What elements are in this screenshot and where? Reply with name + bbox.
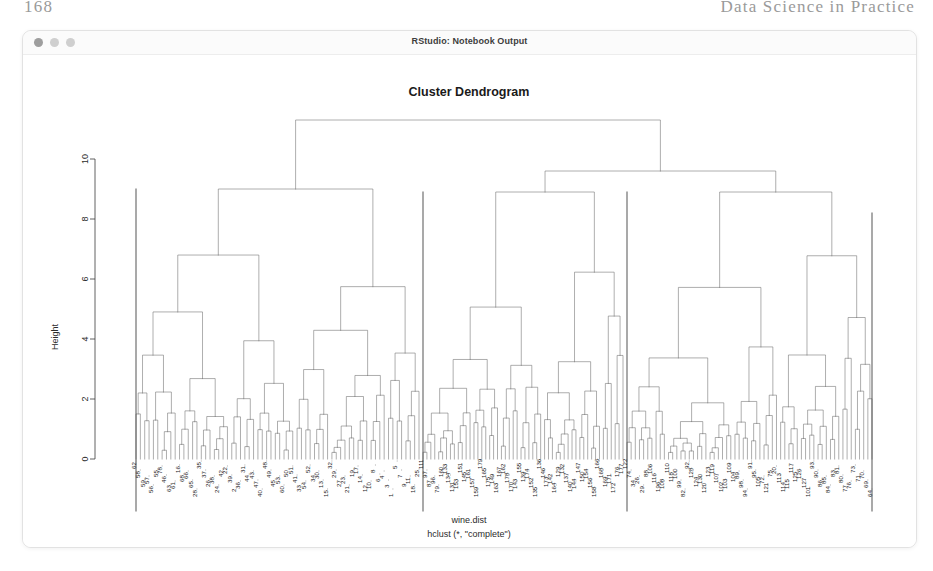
page-root: 168 Data Science in Practice RStudio: No… — [0, 0, 933, 571]
leaf-label: 64 — [866, 490, 873, 497]
dendrogram-leaf-labels: 6258595756557846636116686665283537263824… — [130, 458, 873, 497]
running-head-title: Data Science in Practice — [721, 0, 915, 14]
leaf-label: 93 — [808, 462, 815, 469]
leaf-label: 147 — [574, 462, 581, 473]
leaf-label: 38 — [208, 477, 215, 484]
leaf-label: 126 — [795, 468, 802, 479]
y-tick-label: 4 — [80, 336, 90, 341]
leaf-label: 52 — [304, 466, 311, 473]
leaf-label: 82 — [679, 490, 686, 497]
leaf-label: 134 — [444, 472, 451, 483]
plot-output-area: Cluster Dendrogram 0246810 Height 625859… — [23, 55, 916, 547]
leaf-label: 53 — [274, 477, 281, 484]
leaf-label: 1 — [387, 493, 394, 497]
leaf-label: 84 — [824, 486, 831, 493]
leaf-label: 121 — [762, 482, 769, 493]
window-titlebar[interactable]: RStudio: Notebook Output — [23, 31, 916, 55]
leaf-label: 130 — [696, 473, 703, 484]
leaf-label: 47 — [252, 481, 259, 488]
leaf-label: 60 — [278, 486, 285, 493]
leaf-label: 161 — [464, 468, 471, 479]
leaf-label: 36 — [234, 482, 241, 489]
leaf-label: 70 — [858, 472, 865, 479]
leaf-label: 40 — [256, 490, 263, 497]
leaf-label: 159 — [472, 486, 479, 497]
leaf-label: 29 — [638, 486, 645, 493]
leaf-label: 142 — [546, 473, 553, 484]
leaf-label: 37 — [200, 471, 207, 478]
leaf-label: 111 — [417, 459, 424, 469]
leaf-label: 4 — [378, 475, 385, 479]
leaf-label: 16 — [174, 466, 181, 473]
leaf-label: 24 — [213, 486, 220, 493]
leaf-label: 69 — [862, 481, 869, 488]
cluster-dendrogram-plot: Cluster Dendrogram 0246810 Height 625859… — [23, 55, 916, 547]
leaf-label: 101 — [804, 486, 811, 497]
leaf-label: 128 — [687, 467, 694, 478]
leaf-label: 96 — [429, 477, 436, 484]
leaf-label: 65 — [187, 481, 194, 488]
leaf-label: 163 — [492, 482, 499, 493]
leaf-label: 23 — [339, 477, 346, 484]
leaf-label: 8 — [369, 469, 376, 473]
leaf-label: 136 — [535, 458, 542, 469]
leaf-label: 46 — [160, 476, 167, 483]
leaf-label: 58 — [134, 471, 141, 478]
leaf-label: 66 — [182, 472, 189, 479]
leaf-label: 106 — [646, 463, 653, 474]
leaf-label: 80 — [837, 476, 844, 483]
leaf-label: 133 — [441, 463, 448, 474]
leaf-label: 119 — [708, 464, 715, 474]
rstudio-notebook-window: RStudio: Notebook Output Cluster Dendrog… — [22, 30, 917, 548]
leaf-label: 107 — [712, 472, 719, 483]
leaf-label: 103 — [721, 478, 728, 489]
leaf-label: 152 — [527, 477, 534, 488]
y-tick-label: 0 — [80, 456, 90, 461]
leaf-label: 122 — [621, 458, 628, 469]
leaf-label: 48 — [261, 462, 268, 469]
leaf-label: 56 — [147, 486, 154, 493]
leaf-label: 43 — [248, 472, 255, 479]
leaf-label: 153 — [452, 478, 459, 489]
leaf-label: 171 — [605, 473, 612, 484]
leaf-label: 29 — [330, 471, 337, 478]
leaf-label: 162 — [499, 463, 506, 474]
leaf-label: 151 — [456, 462, 463, 473]
plot-title: Cluster Dendrogram — [409, 85, 530, 99]
y-tick-label: 6 — [80, 276, 90, 281]
leaf-label: 143 — [511, 478, 518, 489]
page-folio: 168 — [24, 0, 53, 14]
leaf-label: 78 — [156, 467, 163, 474]
leaf-label: 90 — [812, 471, 819, 478]
dendrogram-branches — [136, 120, 872, 511]
leaf-label: 165 — [480, 467, 487, 478]
leaf-label: 168 — [597, 467, 604, 478]
leaf-label: 157 — [468, 477, 475, 488]
leaf-label: 109 — [725, 462, 732, 473]
leaf-label: 179 — [476, 458, 483, 469]
leaf-label: 25 — [413, 470, 420, 477]
leaf-label: 164 — [550, 482, 557, 493]
leaf-label: 154 — [582, 468, 589, 479]
leaf-label: 127 — [800, 477, 807, 488]
leaf-label: 156 — [586, 477, 593, 488]
leaf-label: 97 — [421, 471, 428, 478]
leaf-label: 98 — [737, 481, 744, 488]
leaf-label: 3 — [383, 484, 390, 488]
leaf-label: 85 — [820, 477, 827, 484]
leaf-label: 17 — [352, 467, 359, 474]
leaf-label: 11 — [404, 477, 411, 484]
y-tick-label: 8 — [80, 216, 90, 221]
leaf-label: 120 — [700, 482, 707, 493]
x-axis-label-main: wine.dist — [450, 515, 487, 525]
leaf-label: 62 — [130, 462, 137, 469]
leaf-label: 51 — [287, 467, 294, 474]
leaf-label: 61 — [169, 482, 176, 489]
leaf-label: 100 — [671, 468, 678, 479]
leaf-label: 149 — [488, 473, 495, 484]
leaf-label: 99 — [675, 481, 682, 488]
leaf-label: 74 — [625, 471, 632, 478]
leaf-label: 110 — [663, 463, 670, 473]
leaf-label: 137 — [562, 472, 569, 483]
y-axis: 0246810 — [80, 154, 95, 462]
